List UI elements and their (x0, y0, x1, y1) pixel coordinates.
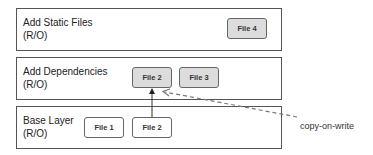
file-box-static-4: File 4 (227, 18, 267, 39)
layer-title: Add Static Files (R/O) (23, 16, 92, 42)
layer-mode: (R/O) (23, 78, 108, 91)
layer-title: Add Dependencies (R/O) (23, 65, 108, 91)
layer-name: Base Layer (23, 114, 74, 127)
copy-on-write-label: copy-on-write (300, 121, 354, 131)
layer-name: Add Static Files (23, 16, 92, 29)
file-box-base-2: File 2 (132, 117, 172, 138)
layer-mode: (R/O) (23, 29, 92, 42)
file-box-base-1: File 1 (84, 117, 124, 138)
file-box-deps-2: File 2 (132, 67, 172, 88)
file-box-deps-3: File 3 (179, 67, 219, 88)
layer-title: Base Layer (R/O) (23, 114, 74, 140)
layer-mode: (R/O) (23, 127, 74, 140)
layer-name: Add Dependencies (23, 65, 108, 78)
